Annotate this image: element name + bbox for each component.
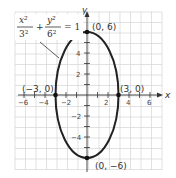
svg-text:6²: 6² bbox=[47, 29, 57, 39]
x-tick-label: −6 bbox=[18, 99, 29, 107]
y-tick-label: −2 bbox=[71, 113, 81, 121]
svg-text:3²: 3² bbox=[19, 29, 29, 39]
svg-text:x²: x² bbox=[19, 15, 28, 25]
x-tick-label: −2 bbox=[61, 99, 71, 107]
y-tick-label: 2 bbox=[76, 71, 80, 79]
point-label-top: (0, 6) bbox=[92, 22, 116, 32]
point-bottom bbox=[85, 156, 90, 161]
svg-text:y²: y² bbox=[46, 15, 56, 25]
x-tick-label: 2 bbox=[104, 99, 108, 107]
equation-leader-line bbox=[40, 42, 59, 58]
y-tick-label: 4 bbox=[76, 50, 81, 58]
point-label-bottom: (0, −6) bbox=[95, 161, 127, 171]
point-label-right: (3, 0) bbox=[120, 84, 144, 94]
x-tick-label: 6 bbox=[147, 99, 152, 107]
svg-text:+: + bbox=[36, 22, 44, 32]
y-tick-label: −4 bbox=[71, 134, 82, 142]
x-tick-label: 4 bbox=[126, 99, 131, 107]
svg-text:= 1: = 1 bbox=[64, 22, 80, 32]
point-top bbox=[85, 30, 90, 35]
point-left bbox=[53, 93, 58, 98]
x-axis-label: x bbox=[164, 90, 171, 100]
ellipse-graph: −6 −4 −2 2 4 6 4 2 −2 −4 x y (0, 6) (3, … bbox=[0, 0, 176, 178]
y-axis-label: y bbox=[81, 5, 88, 15]
point-label-left: (−3, 0) bbox=[22, 84, 54, 94]
x-tick-label: −4 bbox=[39, 99, 50, 107]
equation: x² 3² + y² 6² = 1 bbox=[15, 14, 83, 40]
